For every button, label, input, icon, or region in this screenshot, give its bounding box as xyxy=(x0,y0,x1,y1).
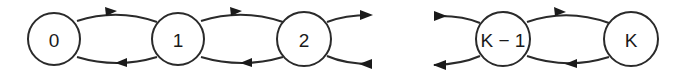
transition-pair-K2-K1-truncated xyxy=(433,11,480,70)
arc-0-to-1 xyxy=(77,15,157,22)
state-K-minus-1: K − 1 xyxy=(476,12,530,66)
state-K: K xyxy=(604,12,658,66)
arc-1-to-0 xyxy=(77,57,157,63)
state-1: 1 xyxy=(152,13,204,65)
state-transition-diagram: 0 1 2 K − 1 K xyxy=(0,0,693,80)
state-0: 0 xyxy=(28,13,80,65)
arrow-left-icon xyxy=(240,58,252,67)
transition-pair-2-3-truncated xyxy=(327,10,373,69)
arrow-left-icon xyxy=(565,59,577,68)
arrow-left-icon xyxy=(433,60,446,70)
arc-K1-to-K xyxy=(527,15,609,23)
arrow-right-icon xyxy=(360,10,373,20)
transition-pair-0-1 xyxy=(77,7,157,67)
state-label: 1 xyxy=(173,30,184,51)
state-label: K − 1 xyxy=(481,30,526,51)
state-label: 0 xyxy=(49,30,60,51)
arc-K-to-K1 xyxy=(527,56,609,63)
arrow-right-icon xyxy=(434,11,447,21)
state-label: K xyxy=(625,30,638,51)
arrow-left-icon xyxy=(115,58,127,67)
state-2: 2 xyxy=(277,12,331,66)
state-label: 2 xyxy=(299,30,310,51)
transition-pair-1-2 xyxy=(201,7,283,67)
arc-2-to-1 xyxy=(201,57,283,63)
arc-1-to-2 xyxy=(201,15,283,22)
transition-pair-K1-K xyxy=(527,7,609,68)
arrow-left-icon xyxy=(359,59,372,69)
